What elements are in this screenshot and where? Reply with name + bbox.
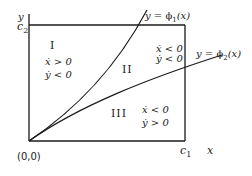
phi1-arg: (x) — [177, 10, 190, 21]
region-i-ydot: ẏ < 0 — [45, 69, 72, 80]
phi2-label: y = ϕ2(x) — [196, 48, 241, 64]
region-iii-xdot: ẋ < 0 — [142, 104, 169, 115]
phi2-arg: (x) — [228, 48, 241, 59]
region-i-xdot: ẋ > 0 — [45, 56, 72, 67]
y-bound-label: c2 — [17, 21, 28, 36]
x-bound-sub: 1 — [186, 150, 191, 159]
region-ii-label: II — [122, 64, 133, 75]
phi1-prefix: y = — [145, 10, 165, 21]
region-iii-ydot: ẏ > 0 — [142, 117, 169, 128]
region-i-label: I — [50, 40, 55, 51]
phase-diagram — [0, 0, 252, 176]
phi2-prefix: y = — [196, 48, 216, 59]
region-iii-label: III — [111, 108, 127, 119]
x-bound-label: c1 — [180, 145, 191, 160]
x-axis-label: x — [207, 145, 213, 156]
region-ii-ydot: ẏ < 0 — [156, 53, 183, 64]
y-bound-sub: 2 — [23, 26, 28, 35]
phi1-label: y = ϕ1(x) — [145, 10, 190, 26]
origin-label: (0,0) — [17, 151, 41, 162]
